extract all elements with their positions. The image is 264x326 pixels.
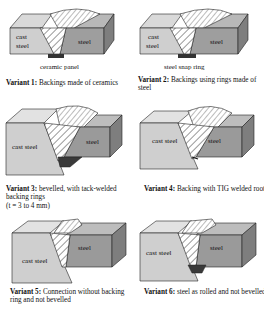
label-cast: cast [148,33,159,41]
label-steel-left: steel [146,42,159,50]
label-steel: steel [210,244,223,252]
label-steel: steel [86,138,99,146]
variant-4-figure: cast steel steel [132,105,264,177]
caption-text: steel as rolled and not bevelled [177,288,264,296]
label-cast-steel: cast steel [12,143,38,151]
caption: Variant 6: steel as rolled and not bevel… [144,288,264,296]
sublabel: ceramic panel [40,63,79,71]
variant-5-figure: cast steel steel [0,215,132,285]
variant-2-figure: cast steel steel [132,0,264,62]
label-steel: steel [78,244,91,252]
variant-1: cast steel steel ceramic panel Variant 1… [0,0,132,105]
label-cast: cast [16,33,27,41]
variant-6: cast steel steel Variant 6: steel as rol… [132,215,264,326]
label-cast-steel: cast steel [146,249,172,257]
caption-title: Variant 5: [10,288,41,296]
label-steel-left: steel [16,42,29,50]
caption-title: Variant 6: [144,288,175,296]
caption: Variant 2: Backings using rings made of … [138,76,263,93]
caption: Variant 4: Backing with TIG welded root [144,185,264,193]
variant-3-figure: cast steel steel [0,105,132,177]
variant-4: cast steel steel Variant 4: Backing with… [132,105,264,215]
caption: Variant 5: Connection without backing ri… [10,288,135,305]
caption-note: (t = 3 to 4 mm) [6,202,50,210]
label-cast-steel: cast steel [152,137,178,145]
caption-title: Variant 2: [138,76,169,84]
variant-1-figure: cast steel steel [0,0,132,62]
sublabel: steel snap ring [164,63,204,71]
backing-ring-icon [58,157,82,167]
caption: Variant 1: Backings made of ceramics [6,79,131,87]
caption: Variant 3: bevelled, with tack-welded ba… [6,185,131,210]
variant-3: cast steel steel Variant 3: bevelled, wi… [0,105,132,215]
label-steel: steel [78,38,91,46]
label-steel: steel [208,137,221,145]
variant-5: cast steel steel Variant 5: Connection w… [0,215,132,326]
caption-title: Variant 4: [144,185,175,193]
caption-text: Backings made of ceramics [39,79,118,87]
label-steel: steel [210,38,223,46]
variant-2: cast steel steel steel snap ring Variant… [132,0,264,105]
ceramic-panel-icon [48,54,64,58]
caption-title: Variant 1: [6,79,37,87]
variant-6-figure: cast steel steel [132,215,264,285]
steel-snap-ring-icon [178,54,196,58]
label-cast-steel: cast steel [22,257,48,265]
caption-title: Variant 3: [6,185,37,193]
caption-text: Backing with TIG welded root [177,185,264,193]
